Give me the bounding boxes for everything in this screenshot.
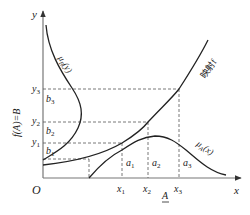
x-axis-caption: A xyxy=(161,190,169,201)
x-tick-labels: x1 x2 x3 xyxy=(116,183,182,196)
y1-label: y1 xyxy=(31,136,40,149)
a2-label: a2 xyxy=(152,157,161,170)
x-axis-label: x xyxy=(233,184,239,196)
y-axis-caption: f(A)=B xyxy=(11,109,23,137)
b1-label: b1 xyxy=(46,145,55,158)
a3-label: a3 xyxy=(183,157,192,170)
b3-label: b3 xyxy=(46,93,55,106)
y2-label: y2 xyxy=(31,115,40,128)
y3-label: y3 xyxy=(31,83,40,96)
x1-label: x1 xyxy=(116,183,125,196)
a-labels: a1 a2 a3 xyxy=(126,157,192,170)
mapping-f-label: 映射f xyxy=(198,57,219,81)
b-labels: b1 b2 b3 xyxy=(46,93,55,158)
mu-a-curve xyxy=(89,136,226,178)
origin-label: O xyxy=(32,183,41,197)
y-axis-label: y xyxy=(31,8,37,20)
mu-a-label: μA(x) xyxy=(193,138,215,158)
fuzzy-mapping-diagram: O x y A f(A)=B x1 x2 x3 y1 y2 y3 b1 b2 b… xyxy=(0,0,250,215)
b2-label: b2 xyxy=(46,125,55,138)
a1-label: a1 xyxy=(126,157,135,170)
x2-label: x2 xyxy=(142,183,151,196)
y-tick-labels: y1 y2 y3 xyxy=(31,83,40,149)
mapping-f-curve xyxy=(43,40,208,165)
x3-label: x3 xyxy=(173,183,182,196)
